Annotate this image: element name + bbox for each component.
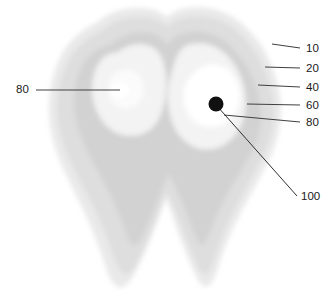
label-right-20: 20 [306, 62, 319, 74]
figure-canvas: 80 10 20 40 60 80 100 [0, 0, 333, 301]
contour-diagram: 80 10 20 40 60 80 100 [0, 0, 333, 301]
label-100: 100 [301, 190, 320, 202]
label-right-60: 60 [306, 99, 319, 111]
label-right-80: 80 [306, 116, 319, 128]
label-right-10: 10 [306, 42, 319, 54]
label-left-80: 80 [16, 83, 29, 95]
hot-spot-marker-100 [209, 97, 224, 112]
label-right-40: 40 [306, 81, 319, 93]
